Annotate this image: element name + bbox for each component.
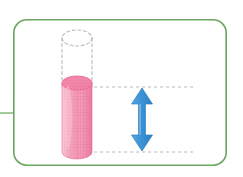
pink-cylinder	[62, 76, 92, 159]
cylinder-highlight	[64, 86, 72, 149]
diagram-canvas: Cylinder volume change diagram A rounded…	[0, 0, 243, 177]
diagram-svg	[0, 0, 243, 177]
arrow-shaft-highlight	[139, 104, 141, 135]
rounded-panel	[14, 20, 226, 165]
